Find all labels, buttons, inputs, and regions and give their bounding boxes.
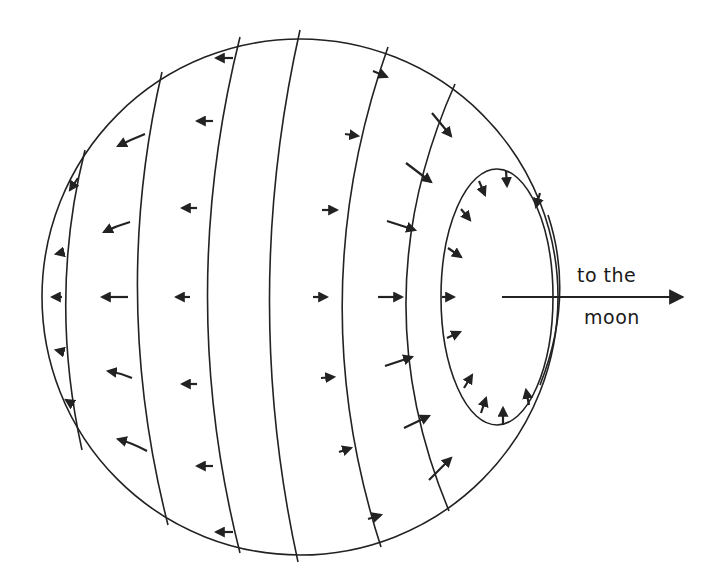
- contour-line-1: [66, 150, 85, 450]
- contour-lines: [66, 30, 560, 562]
- tidal-force-diagram: to the moon: [0, 0, 706, 575]
- moon-label-line1: to the: [577, 264, 636, 286]
- force-vectors: [52, 58, 540, 532]
- contour-line-2: [137, 72, 168, 525]
- contour-line-3: [208, 37, 241, 553]
- moon-label-line2: moon: [584, 306, 640, 328]
- contour-line-4: [269, 30, 300, 562]
